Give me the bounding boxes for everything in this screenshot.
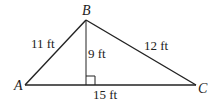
side-ab [25,20,86,85]
right-angle-marker-icon [86,76,95,85]
vertex-label-b: B [82,3,91,18]
length-label-bc: 12 ft [144,38,169,53]
vertex-label-c: C [198,81,208,96]
vertex-label-a: A [13,78,23,93]
length-label-ab: 11 ft [31,36,55,51]
triangle-diagram: B A C 11 ft 9 ft 12 ft 15 ft [0,0,217,107]
length-label-altitude: 9 ft [88,46,106,61]
length-label-ac: 15 ft [93,87,118,102]
